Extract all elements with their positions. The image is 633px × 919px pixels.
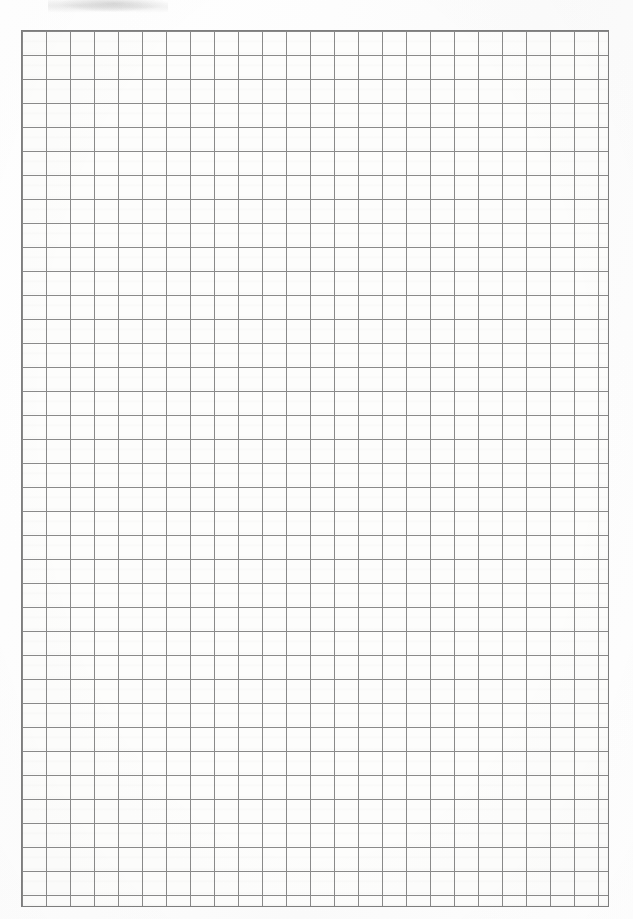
grid-edge-shading bbox=[22, 31, 608, 906]
grid-paper-page bbox=[0, 0, 633, 919]
graph-paper-grid bbox=[21, 30, 609, 907]
scan-banding-overlay bbox=[22, 31, 608, 906]
